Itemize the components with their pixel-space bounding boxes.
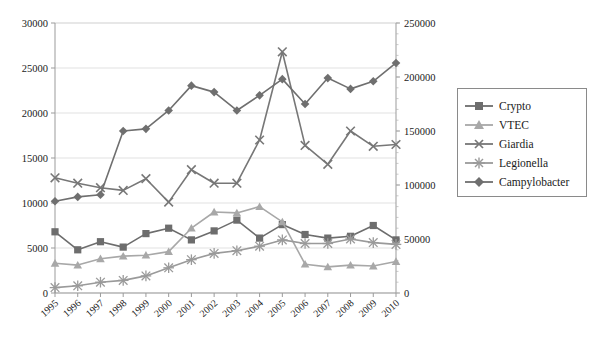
x-axis-tick-label: 2007: [311, 297, 333, 319]
x-axis-tick-label: 1999: [129, 297, 151, 319]
series-line-campylobacter: [55, 63, 396, 201]
x-axis-tick-label: 2006: [288, 297, 310, 319]
right-axis-tick-label: 100000: [404, 180, 436, 191]
right-axis-tick-label: 200000: [404, 72, 436, 83]
data-point-square: [51, 228, 58, 235]
data-point-square: [370, 222, 377, 229]
legend-marker-diamond: [464, 175, 494, 189]
data-point-square: [301, 231, 308, 238]
legend-marker-asterisk: [464, 156, 494, 170]
left-axis-tick-label: 25000: [22, 63, 48, 74]
x-axis-tick-label: 1997: [84, 297, 106, 319]
x-axis-tick-label: 2008: [334, 297, 356, 319]
data-point-diamond: [73, 193, 82, 202]
legend-item-giardia[interactable]: Giardia: [458, 134, 586, 153]
x-axis-tick-label: 2004: [243, 297, 265, 319]
chart-legend: Crypto VTEC Giardia: [457, 88, 587, 197]
data-point-square: [142, 230, 149, 237]
x-axis-tick-label: 2000: [152, 297, 174, 319]
x-axis-tick-label: 1998: [106, 297, 128, 319]
x-axis-tick-label: 2001: [175, 297, 197, 319]
legend-label-giardia: Giardia: [499, 137, 533, 151]
right-axis-tick-label: 0: [404, 288, 409, 299]
legend-label-legionella: Legionella: [499, 156, 548, 170]
series-line-crypto: [55, 220, 396, 250]
left-axis-tick-label: 20000: [22, 108, 48, 119]
data-point-diamond: [51, 197, 60, 206]
x-axis-tick-label: 1995: [38, 297, 60, 319]
left-axis-tick-label: 10000: [22, 198, 48, 209]
data-point-square: [97, 238, 104, 245]
legend-item-crypto[interactable]: Crypto: [458, 96, 586, 115]
chart-svg: 0500010000150002000025000300000500001000…: [0, 0, 440, 339]
legend-label-crypto: Crypto: [499, 99, 531, 113]
chart-screenshot: 0500010000150002000025000300000500001000…: [0, 0, 594, 339]
data-point-square: [74, 246, 81, 253]
data-point-triangle: [392, 257, 401, 265]
legend-marker-cross: [464, 137, 494, 151]
legend-item-vtec[interactable]: VTEC: [458, 115, 586, 134]
chart-plot-area: 0500010000150002000025000300000500001000…: [0, 0, 440, 339]
legend-item-legionella[interactable]: Legionella: [458, 153, 586, 172]
data-point-triangle: [255, 202, 264, 210]
legend-label-vtec: VTEC: [499, 118, 529, 132]
x-axis-tick-label: 1996: [61, 297, 83, 319]
data-point-square: [211, 227, 218, 234]
legend-item-campylobacter[interactable]: Campylobacter: [458, 172, 586, 191]
legend-marker-square: [464, 99, 494, 113]
x-axis-tick-label: 2009: [356, 297, 378, 319]
data-point-diamond: [119, 127, 128, 136]
data-point-square: [256, 235, 263, 242]
right-axis-tick-label: 50000: [404, 234, 430, 245]
left-axis-tick-label: 5000: [27, 243, 48, 254]
left-axis-tick-label: 15000: [22, 153, 48, 164]
data-point-square: [165, 225, 172, 232]
right-axis-tick-label: 250000: [404, 18, 436, 29]
data-point-square: [120, 244, 127, 251]
left-axis-tick-label: 0: [43, 288, 48, 299]
x-axis-tick-label: 2010: [379, 297, 401, 319]
legend-marker-triangle: [464, 118, 494, 132]
data-point-square: [233, 217, 240, 224]
x-axis-tick-label: 2002: [197, 297, 219, 319]
series-giardia: [51, 48, 401, 207]
left-axis-tick-label: 30000: [22, 18, 48, 29]
x-axis-tick-label: 2005: [265, 297, 287, 319]
x-axis-tick-label: 2003: [220, 297, 242, 319]
data-point-diamond: [346, 85, 355, 94]
legend-label-campylobacter: Campylobacter: [499, 175, 569, 189]
series-line-legionella: [55, 239, 396, 288]
right-axis-tick-label: 150000: [404, 126, 436, 137]
data-point-square: [188, 236, 195, 243]
